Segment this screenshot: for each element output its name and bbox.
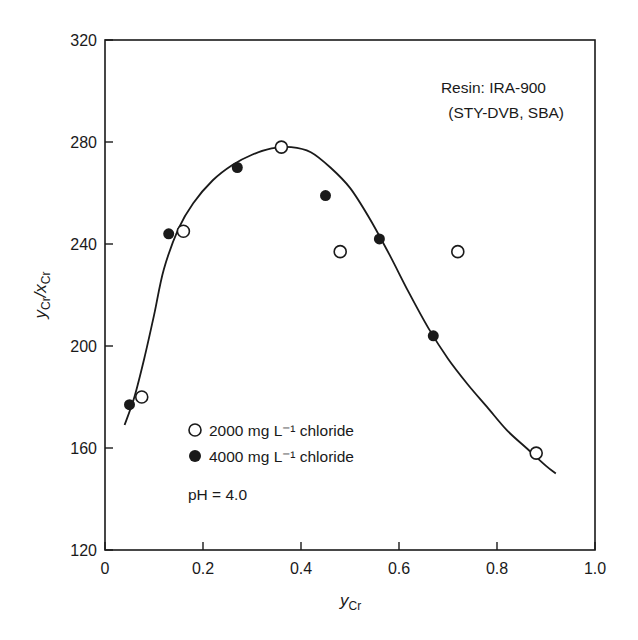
filled-circle-point	[374, 233, 385, 244]
y-axis-label: yCr/xCr	[31, 271, 53, 319]
x-tick-label: 0	[101, 560, 110, 577]
x-tick-label: 0.8	[486, 560, 508, 577]
x-tick-labels: 00.20.40.60.81.0	[101, 560, 607, 577]
x-tick-label: 0.2	[192, 560, 214, 577]
filled-circle-point	[124, 399, 135, 410]
open-circle-point	[530, 447, 542, 459]
y-tick-label: 120	[70, 542, 97, 559]
open-circle-point	[334, 246, 346, 258]
open-circle-point	[177, 225, 189, 237]
x-tick-label: 1.0	[584, 560, 606, 577]
legend-filled-circle-icon	[189, 450, 201, 462]
open-circle-point	[275, 141, 287, 153]
x-tick-label: 0.4	[290, 560, 312, 577]
filled-circle-point	[428, 330, 439, 341]
chart: 120160200240280320 00.20.40.60.81.0 Resi…	[0, 0, 638, 640]
data-points	[124, 141, 542, 459]
y-tick-label: 160	[70, 440, 97, 457]
y-tick-label: 320	[70, 32, 97, 49]
filled-circle-point	[163, 228, 174, 239]
x-tick-label: 0.6	[388, 560, 410, 577]
legend: 2000 mg L⁻¹ chloride 4000 mg L⁻¹ chlorid…	[189, 422, 354, 465]
legend-entry-4000: 4000 mg L⁻¹ chloride	[209, 448, 354, 465]
legend-open-circle-icon	[189, 424, 201, 436]
y-tick-label: 200	[70, 338, 97, 355]
filled-circle-point	[232, 162, 243, 173]
open-circle-point	[136, 391, 148, 403]
annotation-ph: pH = 4.0	[188, 486, 247, 503]
y-tick-label: 280	[70, 134, 97, 151]
y-tick-label: 240	[70, 236, 97, 253]
open-circle-point	[452, 246, 464, 258]
x-axis-label: yCr	[339, 591, 361, 613]
legend-entry-2000: 2000 mg L⁻¹ chloride	[209, 422, 354, 439]
annotation-resin-line2: (STY-DVB, SBA)	[448, 104, 564, 121]
filled-circle-point	[320, 190, 331, 201]
annotation-resin-line1: Resin: IRA-900	[441, 79, 546, 96]
y-tick-labels: 120160200240280320	[70, 32, 97, 559]
